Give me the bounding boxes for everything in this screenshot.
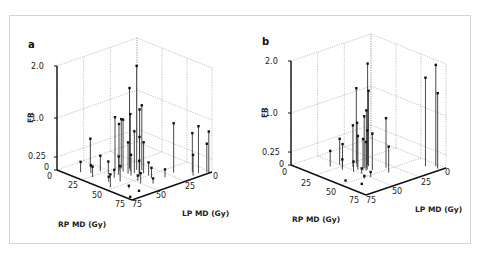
data-point-marker	[114, 116, 116, 118]
panel-a-grid	[57, 38, 212, 200]
data-point-marker	[363, 175, 365, 177]
data-point-marker	[120, 118, 122, 120]
panel-b-rp-tick-25: 25	[301, 179, 311, 188]
panel-a-z-tick-2: 2.0	[31, 62, 44, 71]
data-point-marker	[360, 167, 362, 169]
panel-b-rp-tick-0: 0	[282, 168, 287, 177]
data-point-marker	[129, 113, 131, 115]
data-point-marker	[366, 129, 368, 131]
data-point-marker	[341, 143, 343, 145]
panel-b-rp-tick-50: 50	[326, 188, 336, 197]
data-point-marker	[138, 108, 140, 110]
panel-b-chart: b 2.0 1.0 0.25 0 FR 0 25 50 75 75 50 25 …	[260, 34, 462, 224]
data-point-marker	[361, 183, 363, 185]
data-point-marker	[352, 124, 354, 126]
data-point-marker	[371, 132, 373, 134]
panel-b-lp-tick-75: 75	[366, 196, 376, 205]
panel-a-lp-tick-25: 25	[185, 182, 195, 191]
data-point-marker	[141, 104, 143, 106]
panel-a-lp-tick-75: 75	[132, 200, 142, 209]
data-point-marker	[192, 154, 194, 156]
data-point-marker	[128, 87, 130, 89]
data-point-marker	[79, 161, 81, 163]
panel-b-lp-tick-0: 0	[445, 168, 450, 177]
panel-b-stems	[329, 62, 439, 185]
data-point-marker	[137, 174, 139, 176]
data-point-marker	[369, 171, 371, 173]
panel-a-axes	[54, 66, 212, 200]
panel-b-lp-tick-25: 25	[421, 178, 431, 187]
data-point-marker	[387, 145, 389, 147]
panel-a-chart: a 2.0 1.0 0.25 0 FR 0 25 50 75 75 50 25 …	[26, 38, 229, 229]
data-point-marker	[113, 169, 115, 171]
data-point-marker	[152, 177, 154, 179]
panel-a-rp-tick-25: 25	[68, 181, 78, 190]
data-point-marker	[338, 138, 340, 140]
data-point-marker	[356, 122, 358, 124]
data-point-marker	[352, 160, 354, 162]
data-point-marker	[385, 117, 387, 119]
data-point-marker	[108, 175, 110, 177]
panel-b-lp-tick-50: 50	[392, 187, 402, 196]
data-point-marker	[138, 160, 140, 162]
data-point-marker	[206, 143, 208, 145]
lp-axis-line	[132, 172, 212, 200]
panel-a-rp-tick-50: 50	[92, 191, 102, 200]
panel-b-rp-tick-75: 75	[349, 196, 359, 205]
panel-b-z-tick-025: 0.25	[262, 148, 280, 157]
panel-b-z-label: FR	[260, 107, 269, 118]
panel-b-z-tick-2: 2.0	[265, 57, 278, 66]
data-point-marker	[119, 165, 121, 167]
figure-canvas: a 2.0 1.0 0.25 0 FR 0 25 50 75 75 50 25 …	[0, 0, 480, 259]
data-point-marker	[357, 135, 359, 137]
data-point-marker	[117, 155, 119, 157]
data-point-marker	[127, 141, 129, 143]
data-point-marker	[435, 64, 437, 66]
data-point-marker	[107, 160, 109, 162]
data-point-marker	[133, 130, 135, 132]
panel-a-lp-tick-0: 0	[213, 172, 218, 181]
panel-a-lp-axis-label: LP MD (Gy)	[182, 209, 229, 218]
data-point-marker	[138, 190, 140, 192]
data-point-marker	[99, 155, 101, 157]
data-point-marker	[135, 65, 137, 67]
data-point-marker	[355, 87, 357, 89]
panel-b-axes	[288, 61, 446, 195]
data-point-marker	[128, 185, 130, 187]
data-point-marker	[436, 92, 438, 94]
data-point-marker	[109, 173, 111, 175]
data-point-marker	[363, 115, 365, 117]
lp-axis-line	[366, 168, 446, 195]
panel-b-rp-axis-label: RP MD (Gy)	[292, 215, 340, 224]
panel-a-rp-tick-75: 75	[115, 200, 125, 209]
data-point-marker	[365, 109, 367, 111]
data-point-marker	[142, 141, 144, 143]
data-point-marker	[424, 76, 426, 78]
panel-a-z-tick-0: 0	[44, 163, 49, 172]
data-point-marker	[118, 123, 120, 125]
data-point-marker	[362, 138, 364, 140]
panel-a-label: a	[28, 39, 35, 50]
panel-a-z-label: FR	[26, 112, 35, 123]
data-point-marker	[130, 154, 132, 156]
data-point-marker	[147, 161, 149, 163]
panel-a-z-tick-025: 0.25	[28, 152, 46, 161]
panel-a-rp-tick-0: 0	[47, 172, 52, 181]
data-point-marker	[91, 165, 93, 167]
data-point-marker	[367, 90, 369, 92]
panel-a-stems	[79, 65, 210, 198]
data-point-marker	[172, 122, 174, 124]
data-point-marker	[197, 125, 199, 127]
data-point-marker	[365, 141, 367, 143]
panel-b-label: b	[262, 36, 269, 47]
panel-a-rp-axis-label: RP MD (Gy)	[58, 220, 106, 229]
data-point-marker	[139, 172, 141, 174]
data-point-marker	[344, 179, 346, 181]
data-point-marker	[150, 167, 152, 169]
data-point-marker	[341, 158, 343, 160]
panel-a-lp-tick-50: 50	[156, 191, 166, 200]
data-point-marker	[329, 150, 331, 152]
data-point-marker	[129, 196, 131, 198]
data-point-marker	[366, 62, 368, 64]
data-point-marker	[164, 168, 166, 170]
